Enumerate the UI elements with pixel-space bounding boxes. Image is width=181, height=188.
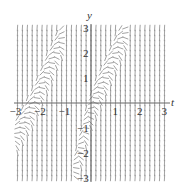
direction-segment [31, 120, 34, 125]
direction-segment [59, 32, 65, 35]
t-tick-labels: −3−2−1123 [10, 105, 168, 117]
direction-segment [93, 86, 98, 90]
direction-segment [44, 61, 49, 65]
direction-segment [112, 53, 118, 54]
direction-segment [98, 96, 103, 100]
direction-segment [78, 142, 84, 144]
direction-segment [73, 162, 79, 164]
direction-segment [31, 90, 34, 95]
direction-segment [104, 61, 108, 66]
direction-segment [99, 70, 103, 75]
direction-segment [16, 145, 19, 150]
direction-segment [19, 127, 25, 128]
direction-segment [114, 35, 117, 41]
direction-segment [104, 86, 108, 91]
direction-segment [55, 36, 59, 41]
direction-segment [58, 38, 64, 39]
t-tick-label: 2 [137, 105, 143, 117]
t-tick-label: −3 [10, 105, 22, 117]
direction-segment [54, 57, 60, 60]
direction-segment [117, 47, 123, 49]
direction-segment [15, 141, 20, 145]
y-tick-label: −1 [77, 122, 89, 134]
direction-segment [114, 65, 118, 70]
direction-segment [39, 91, 44, 94]
direction-segment [59, 46, 64, 49]
direction-segment [20, 117, 26, 120]
direction-segment [103, 72, 109, 73]
direction-segment [59, 42, 65, 43]
y-tick-label: −2 [77, 147, 89, 159]
direction-segment [119, 25, 122, 30]
direction-segment [113, 41, 118, 45]
direction-segment [98, 88, 104, 89]
t-axis-label: t [171, 96, 175, 108]
direction-segment [50, 75, 53, 81]
direction-segment [103, 66, 108, 69]
direction-segment [98, 82, 104, 84]
direction-segment [103, 78, 109, 79]
direction-segment [15, 121, 20, 125]
direction-segment [93, 106, 98, 110]
t-tick-label: 3 [162, 105, 168, 117]
direction-segment [118, 51, 123, 55]
direction-segment [45, 55, 48, 60]
direction-segment [14, 133, 20, 134]
direction-segment [109, 76, 113, 81]
direction-segment [84, 116, 89, 120]
direction-segment [44, 67, 50, 69]
direction-segment [20, 131, 25, 134]
y-tick-label: 1 [83, 72, 89, 84]
direction-segment [44, 81, 49, 85]
y-tick-label: 2 [83, 47, 89, 59]
direction-segment [80, 160, 83, 165]
direction-segment [122, 27, 128, 29]
direction-segment [49, 63, 55, 64]
direction-segment [45, 85, 48, 90]
direction-segment [108, 67, 114, 68]
direction-segment [40, 96, 44, 101]
direction-segment [93, 98, 99, 99]
direction-segment [44, 77, 50, 79]
direction-segment [54, 41, 59, 44]
direction-segment [122, 33, 128, 34]
direction-segment [84, 136, 89, 140]
direction-segment [54, 47, 60, 48]
direction-segment [93, 92, 99, 94]
direction-segment [79, 136, 84, 140]
direction-segment [103, 82, 109, 85]
direction-segment [98, 92, 104, 95]
direction-segment [25, 106, 30, 109]
direction-segment [98, 76, 103, 80]
direction-segment [35, 81, 39, 86]
direction-segment [34, 92, 40, 93]
t-tick-label: 1 [113, 105, 119, 117]
slope-field-chart: t y −3−2−1123 321−1−2−3 [0, 0, 181, 188]
direction-segment [39, 83, 45, 84]
direction-segment [19, 123, 25, 124]
y-tick-label: −3 [77, 172, 89, 184]
direction-segment [51, 80, 52, 86]
direction-segment [84, 140, 87, 145]
direction-segment [50, 45, 54, 50]
direction-segment [55, 61, 59, 66]
direction-segment [108, 51, 112, 56]
direction-segment [107, 63, 113, 64]
direction-segment [59, 26, 64, 31]
direction-segment [123, 41, 128, 45]
direction-segment [39, 87, 45, 88]
direction-segment [49, 57, 55, 59]
direction-segment [34, 98, 40, 99]
t-tick-label: −2 [34, 105, 46, 117]
direction-segment [108, 71, 113, 74]
direction-segment [24, 118, 30, 119]
direction-segment [122, 37, 128, 39]
direction-segment [124, 45, 127, 50]
y-tick-label: 3 [83, 22, 89, 34]
direction-segment [30, 96, 35, 100]
direction-segment [49, 51, 54, 55]
direction-segment [119, 55, 122, 60]
direction-segment [60, 51, 64, 56]
direction-segment [15, 137, 21, 139]
direction-segment [49, 67, 55, 70]
